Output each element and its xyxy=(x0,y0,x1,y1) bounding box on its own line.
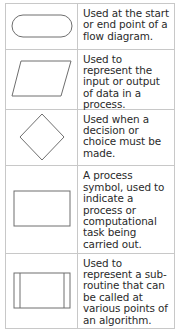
symbol-description: Used when a decision or choice must be m… xyxy=(78,110,174,166)
subroutine-icon xyxy=(13,272,71,310)
symbol-cell xyxy=(6,254,78,328)
symbol-cell xyxy=(6,50,78,109)
terminator-icon xyxy=(11,14,73,38)
parallelogram-icon xyxy=(11,59,73,99)
table-row: Used to represent a sub-routine that can… xyxy=(6,254,174,328)
symbol-description: A process symbol, used to indicate a pro… xyxy=(78,166,174,252)
flowchart-symbols-table: Used at the start or end point of a flow… xyxy=(5,3,175,329)
symbol-cell xyxy=(6,166,78,252)
table-row: Used at the start or end point of a flow… xyxy=(6,4,174,50)
table-row: Used to represent the input or output of… xyxy=(6,50,174,110)
symbol-description: Used at the start or end point of a flow… xyxy=(78,4,174,49)
symbol-cell xyxy=(6,4,78,49)
symbol-cell xyxy=(6,110,78,166)
table-row: Used when a decision or choice must be m… xyxy=(6,110,174,167)
symbol-description: Used to represent a sub-routine that can… xyxy=(78,254,174,328)
diamond-decision-icon xyxy=(18,112,66,162)
table-row: A process symbol, used to indicate a pro… xyxy=(6,166,174,253)
process-rectangle-icon xyxy=(13,190,71,228)
symbol-description: Used to represent the input or output of… xyxy=(78,50,174,109)
